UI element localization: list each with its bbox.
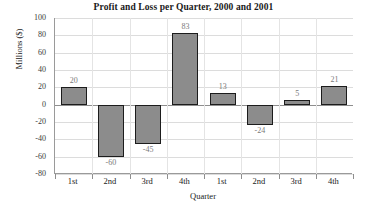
bar-value-label: -24 <box>240 126 280 135</box>
x-axis-title: Quarter <box>54 191 352 201</box>
bar <box>210 93 236 104</box>
x-tick-label: 1st <box>203 176 240 186</box>
chart-container: Profit and Loss per Quarter, 2000 and 20… <box>0 0 367 213</box>
bar-value-label: -45 <box>128 145 168 154</box>
x-tick-label: 4th <box>315 176 352 186</box>
y-tick-label: -20 <box>0 117 46 126</box>
bar-value-label: 13 <box>203 82 243 91</box>
bar <box>98 105 124 157</box>
bar <box>172 33 198 105</box>
x-tick-label: 3rd <box>129 176 166 186</box>
y-tick-label: -60 <box>0 152 46 161</box>
x-tick-label: 2nd <box>240 176 277 186</box>
y-axis-title: Millions ($) <box>14 4 24 94</box>
bar <box>284 100 310 104</box>
bar-value-label: 83 <box>165 22 205 31</box>
bar-value-label: -60 <box>91 158 131 167</box>
bar <box>247 105 273 126</box>
bar <box>61 87 87 104</box>
chart-title: Profit and Loss per Quarter, 2000 and 20… <box>0 2 367 12</box>
bar-value-label: 5 <box>277 89 317 98</box>
plot-area: 20-60-458313-24521 <box>54 18 352 174</box>
x-tick-label: 2nd <box>91 176 128 186</box>
bar-value-label: 20 <box>54 76 94 85</box>
x-tick <box>353 174 354 179</box>
bar <box>321 86 347 104</box>
y-tick-label: -40 <box>0 134 46 143</box>
bars-layer: 20-60-458313-24521 <box>55 18 353 174</box>
y-tick-label: 0 <box>0 100 46 109</box>
y-tick-label: -80 <box>0 169 46 178</box>
bar-value-label: 21 <box>314 75 354 84</box>
x-tick-label: 4th <box>166 176 203 186</box>
x-tick-label: 1st <box>54 176 91 186</box>
bar <box>135 105 161 144</box>
x-tick-label: 3rd <box>278 176 315 186</box>
